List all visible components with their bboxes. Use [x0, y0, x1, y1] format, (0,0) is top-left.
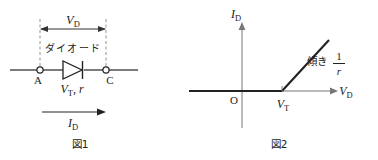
- anode-terminal: [37, 67, 43, 73]
- threshold-label-sub: T: [284, 103, 290, 113]
- current-label-sub: D: [72, 122, 78, 132]
- figure2-caption: 図2: [271, 138, 288, 150]
- current-label: ID: [67, 116, 78, 132]
- figure1-diagram: VD ダイオード A C VT, r ID: [0, 0, 189, 160]
- slope-fraction-numerator: 1: [336, 50, 342, 62]
- x-axis-label-sub: D: [347, 90, 353, 100]
- x-axis-arrow-icon: [330, 88, 338, 95]
- cathode-terminal: [103, 67, 109, 73]
- diode-parameters-label: VT, r: [60, 82, 84, 98]
- y-axis-arrow-icon: [239, 22, 246, 30]
- origin-label: O: [230, 94, 238, 106]
- slope-fraction-denominator: r: [337, 65, 342, 77]
- current-arrow-head-icon: [97, 109, 106, 116]
- parameters-label-rest: , r: [73, 82, 84, 96]
- component-label: ダイオード: [45, 42, 101, 54]
- diode-symbol-triangle-icon: [63, 61, 82, 79]
- x-axis-label: VD: [339, 84, 352, 100]
- y-axis-label-sub: D: [235, 13, 241, 23]
- figure2-chart: ID VD O VT 傾き 1 r 図2: [189, 0, 378, 160]
- voltage-label: VD: [66, 13, 80, 29]
- slope-annotation-text: 傾き: [307, 55, 327, 67]
- y-axis-label: ID: [230, 7, 241, 23]
- voltage-arrow-right-icon: [98, 26, 106, 32]
- figure-panel-container: VD ダイオード A C VT, r ID: [0, 0, 378, 160]
- figure1-caption: 図1: [72, 138, 89, 150]
- threshold-label: VT: [277, 97, 290, 113]
- voltage-arrow-left-icon: [40, 26, 48, 32]
- cathode-label: C: [106, 74, 113, 86]
- voltage-label-sub: D: [74, 19, 80, 29]
- anode-label: A: [34, 74, 42, 86]
